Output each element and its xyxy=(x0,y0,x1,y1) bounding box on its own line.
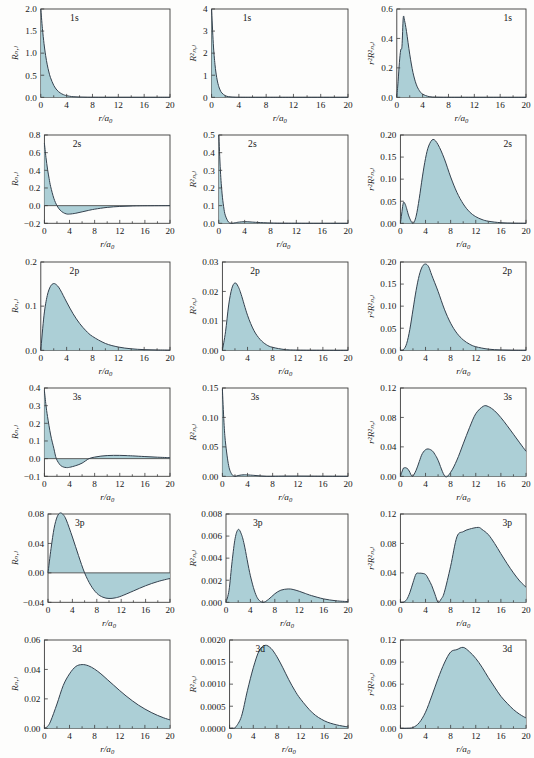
data-curve xyxy=(219,135,348,223)
x-tick-label: 0 xyxy=(220,479,225,489)
plot-panel-3d-R: 0481216200.000.020.040.06r/a0Rₙ,ₗ3d xyxy=(0,631,178,757)
x-tick-label: 20 xyxy=(165,605,175,615)
curve-fill xyxy=(222,282,348,349)
x-tick-label: 16 xyxy=(496,352,506,362)
y-tick-label: 0.10 xyxy=(380,301,396,311)
x-tick-label: 16 xyxy=(496,731,506,741)
x-tick-label: 8 xyxy=(448,352,453,362)
data-curve xyxy=(41,9,170,97)
y-tick-label: 0.2 xyxy=(203,184,215,194)
y-tick-label: 0.004 xyxy=(201,554,222,564)
x-tick-label: 8 xyxy=(92,731,97,741)
curve-fill xyxy=(226,530,348,603)
x-tick-label: 16 xyxy=(496,226,506,236)
y-tick-label: 0.04 xyxy=(24,665,40,675)
panel-label: 2p xyxy=(502,265,512,276)
curve-fill xyxy=(44,391,170,468)
x-tick-label: 4 xyxy=(67,731,72,741)
curve-fill xyxy=(400,140,526,224)
y-tick-label: 0.00 xyxy=(202,471,218,481)
y-axis-title: Rₙ,ₗ xyxy=(10,298,20,314)
y-tick-label: 0.04 xyxy=(380,442,396,452)
plot-frame xyxy=(212,9,348,97)
y-tick-label: 0.00 xyxy=(380,345,396,355)
y-axis-title: Rₙ,ₗ xyxy=(10,45,20,61)
x-axis-title: r/a0 xyxy=(276,239,291,250)
y-tick-label: 0.0 xyxy=(29,454,41,464)
y-tick-label: 0.8 xyxy=(29,131,41,141)
x-tick-label: 16 xyxy=(140,226,150,236)
y-tick-label: 0.0 xyxy=(381,93,393,103)
y-axis-title: R²ₙ,ₗ xyxy=(188,549,198,568)
plot-panel-2p-r2R2: 0481216200.000.050.100.150.20r/a0r²R²ₙ,ₗ… xyxy=(356,253,534,379)
curve-fill xyxy=(400,406,526,477)
y-tick-label: 0.5 xyxy=(203,131,215,141)
plot-panel-1s-R2: 04812162001234r/a0R²ₙ,ₗ1s xyxy=(178,0,356,126)
x-tick-label: 16 xyxy=(140,100,150,110)
data-curve xyxy=(212,9,348,97)
y-tick-label: 0.06 xyxy=(24,636,40,646)
y-tick-label: 0.12 xyxy=(380,509,396,519)
x-axis-title: r/a0 xyxy=(100,492,115,503)
y-tick-label: 0.12 xyxy=(380,636,396,646)
y-tick-label: 0.02 xyxy=(24,695,40,705)
y-tick-label: 0.04 xyxy=(28,539,44,549)
y-tick-label: 1.0 xyxy=(25,48,37,58)
y-axis-title: R²ₙ,ₗ xyxy=(188,44,198,63)
panel-label: 2s xyxy=(248,138,257,149)
y-axis-title: Rₙ,ₗ xyxy=(10,424,20,440)
panel-label: 2p xyxy=(250,265,260,276)
x-tick-label: 20 xyxy=(165,352,175,362)
y-tick-label: 0.0015 xyxy=(200,658,226,668)
y-tick-label: 0 xyxy=(203,93,208,103)
x-tick-label: 12 xyxy=(117,605,127,615)
x-tick-label: 0 xyxy=(217,226,222,236)
y-tick-label: 0.4 xyxy=(381,34,393,44)
x-tick-label: 20 xyxy=(165,100,175,110)
x-tick-label: 12 xyxy=(471,226,481,236)
y-tick-label: 0.000 xyxy=(201,598,222,608)
x-tick-label: 12 xyxy=(293,352,303,362)
curve-fill xyxy=(212,9,348,97)
x-tick-label: 8 xyxy=(268,226,273,236)
y-tick-label: 0.08 xyxy=(380,413,396,423)
x-tick-label: 8 xyxy=(90,100,95,110)
x-tick-label: 4 xyxy=(242,226,247,236)
y-tick-label: 0.06 xyxy=(380,680,396,690)
y-axis-title: r²R²ₙ,ₗ xyxy=(366,546,376,570)
y-tick-label: 0.008 xyxy=(201,509,222,519)
plot-panel-3s-R: 048121620−0.10.00.10.20.30.4r/a0Rₙ,ₗ3s xyxy=(0,379,178,505)
x-tick-label: 0 xyxy=(398,479,403,489)
panel-label: 2s xyxy=(503,138,512,149)
x-tick-label: 4 xyxy=(245,352,250,362)
x-tick-label: 8 xyxy=(270,352,275,362)
x-tick-label: 0 xyxy=(42,479,47,489)
panel-label: 2p xyxy=(70,265,80,276)
x-tick-label: 20 xyxy=(343,352,353,362)
x-tick-label: 12 xyxy=(471,605,481,615)
y-axis-title: R²ₙ,ₗ xyxy=(188,296,198,315)
x-tick-label: 0 xyxy=(398,226,403,236)
x-axis-title: r/a0 xyxy=(454,113,469,124)
x-tick-label: 12 xyxy=(293,479,303,489)
x-tick-label: 16 xyxy=(320,731,330,741)
y-tick-label: 2.0 xyxy=(25,4,37,14)
x-axis-title: r/a0 xyxy=(456,492,471,503)
x-axis-title: r/a0 xyxy=(280,618,295,629)
y-axis-title: R²ₙ,ₗ xyxy=(188,675,198,694)
x-axis-title: r/a0 xyxy=(456,365,471,376)
y-tick-label: 0.10 xyxy=(380,175,396,185)
x-axis-title: r/a0 xyxy=(100,239,115,250)
x-axis-title: r/a0 xyxy=(273,113,288,124)
y-tick-label: 1.5 xyxy=(25,26,37,36)
plot-panel-2s-r2R2: 0481216200.000.050.100.150.20r/a0r²R²ₙ,ₗ… xyxy=(356,126,534,252)
panel-label: 3s xyxy=(503,391,512,402)
x-tick-label: 16 xyxy=(319,605,329,615)
plot-panel-3d-R2: 0481216200.00000.00050.00100.00150.0020r… xyxy=(178,631,356,757)
y-tick-label: 0.20 xyxy=(380,131,396,141)
plot-panel-3s-r2R2: 0481216200.000.040.080.12r/a0r²R²ₙ,ₗ3s xyxy=(356,379,534,505)
x-tick-label: 8 xyxy=(446,100,451,110)
y-tick-label: 0.10 xyxy=(202,413,218,423)
y-tick-label: 0.6 xyxy=(29,148,41,158)
y-tick-label: 4 xyxy=(203,4,208,14)
